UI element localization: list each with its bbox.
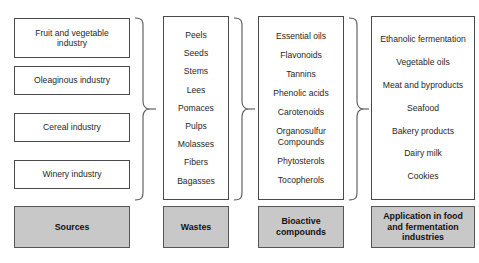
- waste-item: Molasses: [167, 139, 225, 149]
- connector-bioactive-to-applications: [345, 16, 369, 202]
- waste-item: Lees: [167, 85, 225, 95]
- flow-diagram: Fruit and vegetable industry Oleaginous …: [0, 0, 479, 263]
- list-box-applications: Ethanolic fermentation Vegetable oils Me…: [371, 16, 475, 200]
- list-box-wastes: Peels Seeds Stems Lees Pomaces Pulps Mol…: [163, 16, 229, 200]
- waste-item: Pomaces: [167, 103, 225, 113]
- waste-item: Bagasses: [167, 176, 225, 186]
- waste-item: Peels: [167, 30, 225, 40]
- source-label: Winery industry: [18, 169, 126, 179]
- footer-label-text: Application in food and fermentation ind…: [383, 211, 463, 243]
- application-item: Vegetable oils: [375, 57, 471, 67]
- waste-item: Seeds: [167, 48, 225, 58]
- application-item: Dairy milk: [375, 148, 471, 158]
- bioactive-item: Carotenoids: [262, 107, 340, 117]
- source-box-cereal-industry: Cereal industry: [14, 113, 130, 142]
- footer-label-text: Sources: [55, 222, 90, 233]
- waste-item: Pulps: [167, 121, 225, 131]
- footer-label-text: Bioactive compounds: [276, 216, 326, 237]
- application-item: Meat and byproducts: [375, 80, 471, 90]
- application-item: Ethanolic fermentation: [375, 34, 471, 44]
- waste-item: Stems: [167, 66, 225, 76]
- application-item: Bakery products: [375, 126, 471, 136]
- footer-label-sources: Sources: [14, 206, 130, 248]
- footer-label-text: Wastes: [181, 222, 211, 233]
- source-box-winery-industry: Winery industry: [14, 160, 130, 189]
- connector-wastes-to-bioactive: [230, 16, 255, 202]
- bioactive-item: Organosulfur Compounds: [262, 126, 340, 147]
- application-item: Seafood: [375, 103, 471, 113]
- source-box-oleaginous-industry: Oleaginous industry: [14, 66, 130, 95]
- waste-item: Fibers: [167, 157, 225, 167]
- bioactive-item: Flavonoids: [262, 50, 340, 60]
- footer-label-applications: Application in food and fermentation ind…: [371, 206, 475, 248]
- source-box-fruit-and-vegetable-industry: Fruit and vegetable industry: [14, 18, 130, 58]
- bioactive-item: Tocopherols: [262, 175, 340, 185]
- source-label: Cereal industry: [18, 122, 126, 132]
- bioactive-item: Phenolic acids: [262, 88, 340, 98]
- application-item: Cookies: [375, 171, 471, 181]
- footer-label-bioactive-compounds: Bioactive compounds: [258, 206, 344, 248]
- connector-sources-to-wastes: [131, 16, 156, 202]
- source-label: Fruit and vegetable industry: [18, 28, 126, 49]
- source-label: Oleaginous industry: [18, 75, 126, 85]
- bioactive-item: Tannins: [262, 69, 340, 79]
- footer-label-wastes: Wastes: [163, 206, 229, 248]
- list-box-bioactive-compounds: Essential oils Flavonoids Tannins Phenol…: [258, 16, 344, 200]
- bioactive-item: Essential oils: [262, 31, 340, 41]
- bioactive-item: Phytosterols: [262, 156, 340, 166]
